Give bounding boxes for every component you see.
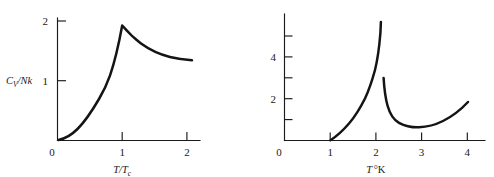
x-ticklabel-0-left: 0 bbox=[49, 146, 55, 158]
y-ticklabel-2-left: 2 bbox=[43, 15, 49, 27]
x-ticklabel-0-right: 0 bbox=[276, 146, 282, 158]
y-axis-label-rest-left: /Nk bbox=[17, 75, 33, 86]
x-axis-label-main-left: T/T bbox=[113, 164, 129, 175]
x-ticklabel-4-right: 4 bbox=[465, 146, 471, 158]
x-ticklabel-2-right: 2 bbox=[373, 146, 379, 158]
chart-panel-liquid-helium: 2 4 0 1 2 3 4 C/Nk T°K bbox=[247, 0, 494, 177]
y-axis-label-left: CV/Nk bbox=[6, 75, 33, 89]
y-ticklabel-1-left: 1 bbox=[43, 75, 49, 87]
x-ticklabel-1-left: 1 bbox=[119, 146, 125, 158]
x-ticklabel-2-left: 2 bbox=[184, 146, 190, 158]
x-axis-label-right: T°K bbox=[366, 164, 386, 175]
x-axis-label-unit-right: °K bbox=[374, 164, 386, 175]
x-axis-label-main-right: T bbox=[366, 164, 373, 175]
y-ticklabel-4-right: 4 bbox=[271, 51, 277, 63]
x-axis-label-left: T/Tc bbox=[113, 164, 132, 177]
x-ticklabel-1-right: 1 bbox=[327, 146, 333, 158]
x-axis-label-sub-left: c bbox=[128, 169, 132, 177]
data-curve-helium-below-lambda bbox=[331, 22, 381, 140]
x-ticklabel-3-right: 3 bbox=[419, 146, 425, 158]
chart-panel-bose-gas: 2 1 0 1 2 CV/Nk T/Tc bbox=[0, 0, 247, 177]
data-curve-helium-above-lambda bbox=[384, 78, 468, 127]
y-ticklabel-2-right: 2 bbox=[271, 93, 277, 105]
data-curve-bose-gas bbox=[59, 26, 193, 141]
chart-svg-left: 2 1 0 1 2 CV/Nk T/Tc bbox=[0, 0, 247, 177]
figure-container: 2 1 0 1 2 CV/Nk T/Tc bbox=[0, 0, 494, 177]
chart-svg-right: 2 4 0 1 2 3 4 C/Nk T°K bbox=[247, 0, 494, 177]
